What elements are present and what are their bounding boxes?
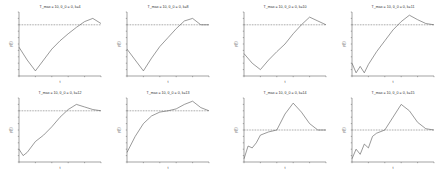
x-axis-label: t: [168, 166, 169, 170]
data-line: [19, 18, 101, 70]
chart-panel: T_max = 10, θ_0 = 0, k=4tp(t): [5, 2, 105, 86]
chart-title: T_max = 10, θ_0 = 0, k=8: [147, 5, 188, 9]
x-axis-label: t: [393, 80, 394, 84]
chart-panel: T_max = 10, θ_0 = 0, k=13tp(t): [113, 88, 213, 172]
y-axis-label: p(t): [342, 41, 346, 46]
x-axis-label: t: [168, 80, 169, 84]
x-axis-label: t: [60, 80, 61, 84]
y-axis-label: p(t): [234, 127, 238, 132]
chart-title: T_max = 10, θ_0 = 0, k=4: [39, 5, 80, 9]
data-line: [244, 17, 326, 69]
figure-grid: T_max = 10, θ_0 = 0, k=4tp(t)T_max = 10,…: [0, 0, 438, 174]
data-line: [127, 18, 209, 70]
y-axis-label: p(t): [117, 41, 121, 46]
chart-panel: T_max = 10, θ_0 = 0, k=11tp(t): [338, 2, 438, 86]
y-axis-label: p(t): [9, 127, 13, 132]
chart-title: T_max = 10, θ_0 = 0, k=11: [372, 5, 415, 9]
chart-panel: T_max = 10, θ_0 = 0, k=12tp(t): [5, 88, 105, 172]
y-axis-label: p(t): [234, 41, 238, 46]
y-axis-label: p(t): [9, 41, 13, 46]
chart-title: T_max = 10, θ_0 = 0, k=10: [263, 5, 306, 9]
data-line: [352, 15, 434, 73]
chart-title: T_max = 10, θ_0 = 0, k=14: [263, 91, 306, 95]
chart-panel: T_max = 10, θ_0 = 0, k=15tp(t): [338, 88, 438, 172]
chart-panel: T_max = 10, θ_0 = 0, k=10tp(t): [230, 2, 330, 86]
data-line: [244, 103, 326, 159]
data-line: [19, 104, 101, 155]
chart-panel: T_max = 10, θ_0 = 0, k=8tp(t): [113, 2, 213, 86]
y-axis-label: p(t): [342, 127, 346, 132]
chart-title: T_max = 10, θ_0 = 0, k=12: [38, 91, 81, 95]
x-axis-label: t: [285, 166, 286, 170]
chart-panel: T_max = 10, θ_0 = 0, k=14tp(t): [230, 88, 330, 172]
x-axis-label: t: [60, 166, 61, 170]
x-axis-label: t: [285, 80, 286, 84]
data-line: [127, 101, 209, 152]
chart-title: T_max = 10, θ_0 = 0, k=13: [146, 91, 189, 95]
data-line: [352, 104, 434, 158]
x-axis-label: t: [393, 166, 394, 170]
chart-title: T_max = 10, θ_0 = 0, k=15: [371, 91, 414, 95]
y-axis-label: p(t): [117, 127, 121, 132]
